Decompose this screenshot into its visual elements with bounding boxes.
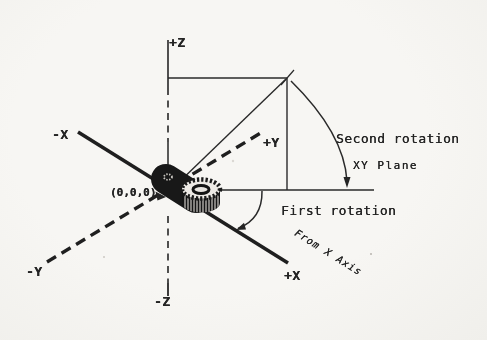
part-at-origin	[162, 172, 221, 215]
part-cylinder-hole	[193, 186, 209, 194]
label-minus-z: -Z	[154, 295, 171, 308]
label-second-rotation: Second rotation	[336, 132, 459, 145]
label-first-rotation: First rotation	[281, 204, 396, 217]
label-plus-z: +Z	[169, 36, 186, 49]
first-rotation-arc	[238, 191, 262, 229]
rotation-diagram: +Z -Z -X +X +Y -Y (0,0,0) Second rotatio…	[0, 0, 487, 340]
label-minus-x: -X	[52, 128, 69, 141]
label-xy-plane: XY Plane	[353, 160, 418, 171]
label-minus-y: -Y	[26, 265, 43, 278]
second-rotation-arrowhead	[344, 177, 351, 188]
label-plus-y: +Y	[263, 136, 280, 149]
origin-to-corner-diagonal	[174, 79, 286, 187]
label-plus-x: +X	[284, 269, 301, 282]
first-rotation-arrowhead	[236, 223, 246, 230]
label-origin: (0,0,0)	[110, 187, 156, 198]
